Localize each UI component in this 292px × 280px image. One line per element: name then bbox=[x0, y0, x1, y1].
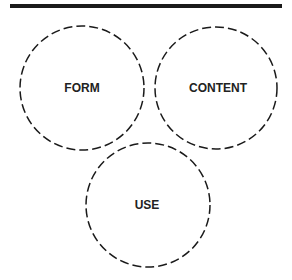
label-use: USE bbox=[135, 198, 160, 212]
label-content: CONTENT bbox=[189, 81, 248, 95]
diagram-canvas: FORM CONTENT USE bbox=[0, 0, 292, 280]
label-form: FORM bbox=[64, 81, 99, 95]
